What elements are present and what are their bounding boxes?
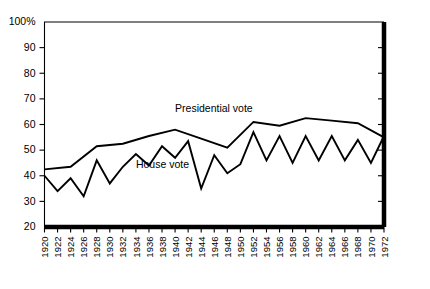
x-tick-label-1928: 1928 <box>91 237 102 258</box>
x-tick-label-1942: 1942 <box>183 237 194 258</box>
x-axis-tick-labels: 1920192219241926192819301932193419361938… <box>39 237 390 258</box>
series-line-house-vote <box>45 132 385 196</box>
x-tick-label-1968: 1968 <box>352 237 363 258</box>
x-tick-label-1930: 1930 <box>104 237 115 258</box>
plot-frame <box>45 22 385 227</box>
y-tick-label-60: 60 <box>24 118 36 130</box>
x-tick-label-1920: 1920 <box>39 237 50 258</box>
x-tick-label-1934: 1934 <box>131 237 142 258</box>
x-tick-label-1946: 1946 <box>209 237 220 258</box>
x-tick-label-1932: 1932 <box>117 237 128 258</box>
chart-container: 100%9080706050403020 1920192219241926192… <box>0 0 430 289</box>
vote-percentage-line-chart: 100%9080706050403020 1920192219241926192… <box>0 0 430 289</box>
x-tick-label-1922: 1922 <box>52 237 63 258</box>
x-tick-label-1924: 1924 <box>65 237 76 258</box>
y-tick-label-80: 80 <box>24 67 36 79</box>
x-tick-label-1966: 1966 <box>339 237 350 258</box>
x-tick-label-1954: 1954 <box>261 237 272 258</box>
x-tick-label-1956: 1956 <box>274 237 285 258</box>
y-tick-label-40: 40 <box>24 169 36 181</box>
x-tick-label-1962: 1962 <box>313 237 324 258</box>
y-tick-label-20: 20 <box>24 220 36 232</box>
x-tick-label-1926: 1926 <box>78 237 89 258</box>
x-tick-label-1944: 1944 <box>196 237 207 258</box>
x-tick-label-1958: 1958 <box>287 237 298 258</box>
x-tick-label-1972: 1972 <box>379 237 390 258</box>
data-series-lines <box>45 118 385 196</box>
y-axis-ticks <box>40 48 45 202</box>
y-tick-label-50: 50 <box>24 143 36 155</box>
x-tick-label-1950: 1950 <box>235 237 246 258</box>
x-tick-label-1936: 1936 <box>144 237 155 258</box>
series-label-house-vote: House vote <box>136 158 189 170</box>
plot-border <box>45 22 385 227</box>
series-label-presidential-vote: Presidential vote <box>175 102 253 114</box>
x-tick-label-1940: 1940 <box>170 237 181 258</box>
y-tick-label-70: 70 <box>24 92 36 104</box>
x-tick-label-1960: 1960 <box>300 237 311 258</box>
y-tick-label-90: 90 <box>24 41 36 53</box>
y-axis-tick-labels: 100%9080706050403020 <box>9 15 36 232</box>
x-tick-label-1964: 1964 <box>326 237 337 258</box>
x-tick-label-1952: 1952 <box>248 237 259 258</box>
y-axis-ticks-right <box>378 48 382 202</box>
x-tick-label-1970: 1970 <box>366 237 377 258</box>
y-tick-label-100: 100% <box>9 15 36 27</box>
x-tick-label-1938: 1938 <box>157 237 168 258</box>
x-tick-label-1948: 1948 <box>222 237 233 258</box>
y-tick-label-30: 30 <box>24 195 36 207</box>
